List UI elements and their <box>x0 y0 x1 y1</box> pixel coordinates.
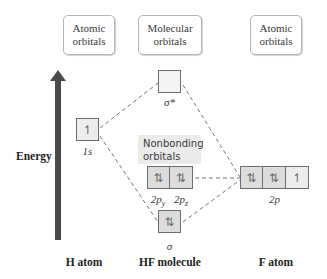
nonbonding-label-line: orbitals <box>143 150 196 163</box>
nonbonding-orbitals: ⇅ ⇅ <box>147 166 193 189</box>
energy-axis-label: Energy <box>16 150 52 162</box>
header-line: Atomic <box>73 22 106 35</box>
h-atom-label: H atom <box>60 256 108 268</box>
header-line: orbitals <box>73 35 106 48</box>
f-2p-orbital-3: ↿ <box>286 166 309 189</box>
sigma-star-orbital <box>158 70 181 93</box>
h-1s-orbital: ↿ <box>76 118 99 141</box>
nonbonding-orbitals-label: Nonbonding orbitals <box>138 135 201 164</box>
orbital-subscript: z <box>185 199 188 208</box>
2pz-label: 2pz <box>169 193 193 208</box>
hf-molecule-label: HF molecule <box>135 256 205 268</box>
sigma-orbital: ⇅ <box>158 210 181 233</box>
sigma-label: σ <box>158 240 181 252</box>
header-line: orbitals <box>154 35 187 48</box>
orbital-subscript: y <box>162 199 166 208</box>
f-2p-orbitals: ⇅ ⇅ ↿ <box>240 166 309 189</box>
sigma-star-label: σ* <box>158 96 181 108</box>
header-line: Molecular <box>147 22 192 35</box>
header-atomic-orbitals-h: Atomic orbitals <box>63 15 115 55</box>
header-molecular-orbitals: Molecular orbitals <box>138 15 202 55</box>
h1s-to-sigma-star-line <box>100 83 158 128</box>
nonbonding-label-line: Nonbonding <box>143 137 196 150</box>
f-2p-orbital-2: ⇅ <box>263 166 286 189</box>
header-line: Atomic <box>260 22 293 35</box>
f-2p-orbital-1: ⇅ <box>240 166 263 189</box>
orbital-name: 2p <box>151 193 162 205</box>
orbital-name: 2p <box>174 193 185 205</box>
2py-orbital: ⇅ <box>147 166 170 189</box>
f-2p-label: 2p <box>240 193 309 205</box>
energy-arrow-icon <box>50 70 66 240</box>
h-1s-label: 1s <box>76 145 99 157</box>
header-line: orbitals <box>260 35 293 48</box>
header-atomic-orbitals-f: Atomic orbitals <box>250 15 302 55</box>
f-atom-label: F atom <box>252 256 300 268</box>
2py-label: 2py <box>146 193 170 208</box>
2pz-orbital: ⇅ <box>170 166 193 189</box>
